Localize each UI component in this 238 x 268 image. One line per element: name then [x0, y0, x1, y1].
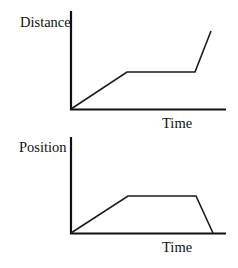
- distance-y-label: Distance: [20, 14, 71, 30]
- distance-time-graph: Distance Time: [20, 11, 226, 131]
- position-time-graph: Position Time: [19, 137, 226, 255]
- position-curve: [71, 196, 213, 233]
- position-x-label: Time: [162, 239, 192, 255]
- distance-x-label: Time: [162, 115, 192, 131]
- graphs-canvas: Distance Time Position Time: [0, 0, 238, 268]
- distance-curve: [71, 31, 211, 109]
- position-y-label: Position: [19, 139, 67, 155]
- motion-graphs-figure: Distance Time Position Time: [0, 0, 238, 268]
